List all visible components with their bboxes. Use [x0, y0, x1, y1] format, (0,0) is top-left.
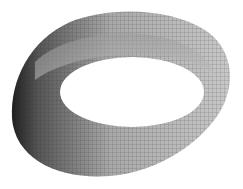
mobius-strip-figure — [0, 0, 243, 189]
mobius-surface — [12, 12, 230, 177]
inner-hole — [60, 57, 204, 127]
